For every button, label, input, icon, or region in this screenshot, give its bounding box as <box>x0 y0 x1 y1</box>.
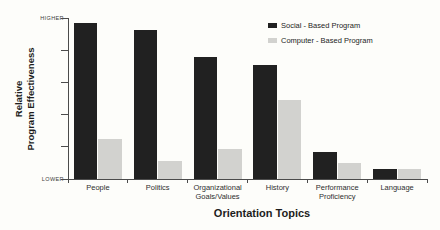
x-axis-category-label-performance-proficiency: Performance Proficiency <box>307 184 367 201</box>
x-axis-line <box>62 179 428 180</box>
x-axis-tick <box>367 180 368 183</box>
y-axis-title-line2: Program Effectiveness <box>24 48 36 151</box>
bar-social-based-program-people <box>74 23 98 179</box>
bar-computer-based-program-performance-proficiency <box>338 163 362 179</box>
x-axis-tick <box>127 180 128 183</box>
bar-computer-based-program-organizational-goals-values <box>218 149 242 179</box>
bar-computer-based-program-politics <box>158 161 182 179</box>
legend-label-social: Social - Based Program <box>281 21 360 30</box>
x-axis-category-label-history: History <box>248 184 308 193</box>
x-axis-tick <box>307 180 308 183</box>
x-axis-tick <box>427 180 428 183</box>
legend-swatch-social-icon <box>268 23 277 28</box>
bar-chart-figure: Relative Program Effectiveness HIGHER LO… <box>0 0 440 230</box>
y-axis-lower-label: LOWER <box>0 176 64 183</box>
bar-computer-based-program-history <box>278 100 302 179</box>
x-axis-category-label-people: People <box>68 184 128 193</box>
bar-computer-based-program-language <box>398 169 422 179</box>
y-axis-tick <box>61 82 68 83</box>
bar-computer-based-program-people <box>98 139 122 179</box>
bar-social-based-program-language <box>373 169 397 179</box>
bar-social-based-program-history <box>253 65 277 179</box>
x-axis-tick <box>68 180 69 183</box>
legend-swatch-computer-icon <box>268 38 277 43</box>
x-axis-category-label-language: Language <box>367 184 427 193</box>
legend-label-computer: Computer - Based Program <box>281 36 373 45</box>
bar-social-based-program-performance-proficiency <box>313 152 337 179</box>
y-axis-title: Relative Program Effectiveness <box>13 48 36 151</box>
x-axis-tick <box>247 180 248 183</box>
y-axis-tick <box>61 50 68 51</box>
y-axis-tick <box>61 114 68 115</box>
legend: Social - Based Program Computer - Based … <box>268 21 373 51</box>
legend-item-social-based-program: Social - Based Program <box>268 21 373 30</box>
x-axis-category-label-politics: Politics <box>128 184 188 193</box>
y-axis-tick <box>61 18 68 19</box>
x-axis-title: Orientation Topics <box>214 207 310 219</box>
y-axis-line <box>68 18 69 179</box>
legend-item-computer-based-program: Computer - Based Program <box>268 36 373 45</box>
x-axis-tick <box>187 180 188 183</box>
y-axis-tick <box>61 146 68 147</box>
y-axis-title-line1: Relative <box>13 48 25 151</box>
y-axis-higher-label: HIGHER <box>0 15 64 22</box>
bar-social-based-program-politics <box>134 30 158 179</box>
x-axis-category-label-organizational-goals-values: Organizational Goals/Values <box>188 184 248 201</box>
bar-social-based-program-organizational-goals-values <box>194 57 218 179</box>
